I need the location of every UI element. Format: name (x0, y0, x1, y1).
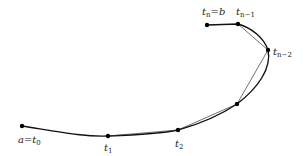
point-t1 (106, 134, 110, 138)
point-tn-2 (266, 48, 270, 52)
point-tn (205, 23, 209, 27)
partition-points (20, 22, 270, 138)
label-tn-1: tn−1 (236, 6, 255, 19)
label-tn-2: tn−2 (273, 46, 292, 59)
point-tn-1 (236, 22, 240, 26)
chord-t2-t3 (178, 104, 237, 130)
point-t0 (20, 124, 24, 128)
chord-t1-t2 (108, 130, 178, 136)
chord-t3-tn2 (237, 50, 268, 104)
point-t3 (235, 102, 239, 106)
point-t2 (176, 128, 180, 132)
curve-diagram: a=t0 t1 t2 tn−2 tn−1 tn=b (0, 0, 307, 156)
label-tn: tn=b (202, 6, 225, 19)
label-t0: a=t0 (18, 134, 41, 147)
label-t2: t2 (175, 138, 184, 151)
label-t1: t1 (104, 142, 113, 155)
polygonal-chords (108, 24, 268, 136)
chord-tn2-tn1 (238, 24, 268, 50)
smooth-curve (22, 24, 269, 136)
